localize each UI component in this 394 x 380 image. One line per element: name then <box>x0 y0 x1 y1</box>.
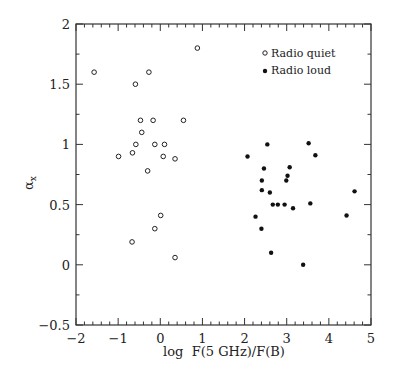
x-tick-label: 4 <box>325 331 333 346</box>
radio-loud-point <box>313 153 317 157</box>
radio-loud-point <box>285 174 289 178</box>
x-tick-label: 5 <box>367 331 375 346</box>
radio-quiet-point <box>139 130 144 135</box>
radio-quiet-point <box>130 151 135 156</box>
legend-marker-radio-loud <box>263 69 267 73</box>
legend-label-radio-loud: Radio loud <box>271 64 331 77</box>
radio-quiet-point <box>116 154 121 159</box>
radio-quiet-point <box>173 157 178 162</box>
x-tick-label: −2 <box>66 331 85 346</box>
data-points <box>92 46 357 267</box>
radio-loud-point <box>265 142 269 146</box>
radio-quiet-point <box>161 154 166 159</box>
radio-loud-point <box>282 202 286 206</box>
radio-loud-point <box>268 190 272 194</box>
y-tick-label: 1.5 <box>49 77 70 92</box>
radio-quiet-point <box>195 46 200 51</box>
radio-loud-point <box>352 189 356 193</box>
radio-quiet-point <box>133 82 138 87</box>
y-tick-label: −0.5 <box>38 318 70 333</box>
radio-quiet-point <box>162 142 167 147</box>
radio-loud-point <box>262 166 266 170</box>
radio-loud-point <box>269 251 273 255</box>
radio-quiet-point <box>92 70 97 75</box>
y-tick-label: 0 <box>62 258 70 273</box>
radio-quiet-point <box>173 255 178 260</box>
y-axis-label-main: α <box>21 181 36 190</box>
radio-quiet-point <box>158 213 163 218</box>
radio-loud-point <box>259 226 263 230</box>
legend-label-radio-quiet: Radio quiet <box>271 47 336 60</box>
svg-text:αx: αx <box>21 176 38 190</box>
radio-loud-point <box>276 202 280 206</box>
x-axis-label: log F(5 GHz)/F(B) <box>163 344 285 359</box>
radio-loud-point <box>308 201 312 205</box>
radio-loud-point <box>260 188 264 192</box>
radio-loud-point <box>344 213 348 217</box>
radio-quiet-point <box>181 118 186 123</box>
radio-loud-point <box>284 178 288 182</box>
radio-loud-point <box>301 263 305 267</box>
radio-loud-point <box>253 214 257 218</box>
y-axis-label-sub: x <box>28 176 38 181</box>
y-axis-label: αx <box>21 176 38 190</box>
radio-quiet-point <box>153 142 158 147</box>
radio-quiet-point <box>151 118 156 123</box>
radio-loud-point <box>245 154 249 158</box>
radio-quiet-point <box>138 118 143 123</box>
radio-loud-point <box>260 178 264 182</box>
y-tick-label: 1 <box>62 137 70 152</box>
radio-loud-point <box>271 202 275 206</box>
radio-loud-point <box>306 141 310 145</box>
y-tick-label: 2 <box>62 17 70 32</box>
y-tick-label: 0.5 <box>49 198 70 213</box>
radio-loud-point <box>291 206 295 210</box>
radio-loud-point <box>287 165 291 169</box>
legend-marker-radio-quiet <box>263 51 267 55</box>
x-tick-label: −1 <box>109 331 128 346</box>
radio-quiet-point <box>130 240 135 245</box>
radio-quiet-point <box>145 169 150 174</box>
radio-quiet-point <box>147 70 152 75</box>
radio-quiet-point <box>134 142 139 147</box>
radio-quiet-point <box>153 226 158 231</box>
scatter-chart: −2−1012345−0.500.511.52 Radio quiet Radi… <box>0 0 394 380</box>
legend: Radio quiet Radio loud <box>263 47 336 77</box>
